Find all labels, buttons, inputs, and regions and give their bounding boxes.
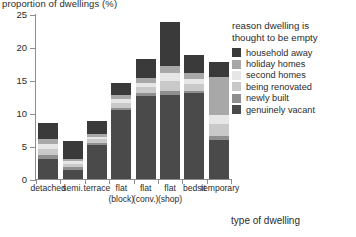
legend-label: household away [246,48,312,58]
bar-detached[interactable] [38,123,58,179]
bar-segment-genuinely-vacant [111,110,131,179]
legend-item-genuinely-vacant[interactable]: genuinely vacant [232,104,356,115]
bar-segment-genuinely-vacant [38,159,58,179]
legend-swatch-icon [232,60,241,69]
y-tick-25: 25 [30,15,36,16]
bar-segment-household-away [184,55,204,73]
y-tick-label-5: 5 [22,141,27,152]
legend-label: genuinely vacant [246,105,315,115]
bar-flat-conv-[interactable] [136,59,156,179]
bar-segment-genuinely-vacant [87,145,107,179]
x-label-temporary: temporary [201,183,237,194]
x-label-line1: temporary [201,183,240,193]
bar-flat-shop-[interactable] [160,22,180,179]
bar-segment-genuinely-vacant [136,96,156,179]
chart-root: proportion of dwellings (%) 0510152025 d… [0,0,356,237]
y-tick-label-10: 10 [16,108,27,119]
legend-item-household-away[interactable]: household away [232,47,356,58]
y-tick-label-15: 15 [16,75,27,86]
legend-label: holiday homes [246,59,305,69]
bar-segment-holiday-homes [160,66,180,73]
legend-item-holiday-homes[interactable]: holiday homes [232,58,356,69]
y-tick-20: 20 [30,48,36,49]
bar-segment-second-homes [209,115,229,124]
legend-title-line1: reason dwelling is [232,20,356,32]
bar-temporary[interactable] [209,62,229,179]
bar-terrace[interactable] [87,121,107,179]
bar-segment-genuinely-vacant [209,140,229,179]
legend: reason dwelling is thought to be empty h… [232,20,356,115]
x-label-line1: flat [116,183,127,193]
bar-segment-second-homes [160,73,180,81]
bar-segment-holiday-homes [209,77,229,115]
bar-segment-holiday-homes [184,73,204,80]
legend-title-line2: thought to be empty [232,32,356,44]
bar-semi-[interactable] [63,141,83,179]
legend-swatch-icon [232,105,241,114]
legend-label: being renovated [246,82,312,92]
legend-swatch-icon [232,71,241,80]
y-tick-10: 10 [30,114,36,115]
bar-segment-household-away [209,62,229,77]
legend-items: household awayholiday homessecond homesb… [232,47,356,115]
legend-label: second homes [246,70,306,80]
legend-title: reason dwelling is thought to be empty [232,20,356,43]
bar-segment-being-renovated [209,124,229,137]
bar-segment-being-renovated [184,84,204,91]
legend-swatch-icon [232,48,241,57]
legend-item-second-homes[interactable]: second homes [232,70,356,81]
bar-segment-household-away [111,83,131,95]
y-axis-title: proportion of dwellings (%) [2,0,117,9]
bar-segment-household-away [38,123,58,140]
bar-flat-block-[interactable] [111,83,131,179]
plot-area: 0510152025 [35,14,231,180]
bar-segment-household-away [63,141,83,159]
legend-item-being-renovated[interactable]: being renovated [232,81,356,92]
x-label-line2: (shop) [152,194,188,205]
bar-segment-household-away [136,59,156,78]
x-axis-labels: detachedsemi.terraceflat(block)flat(conv… [36,183,232,217]
y-tick-15: 15 [30,81,36,82]
bar-segment-household-away [87,121,107,134]
bar-segment-being-renovated [160,81,180,91]
y-tick-label-20: 20 [16,42,27,53]
x-label-line1: flat [164,183,175,193]
y-tick-5: 5 [30,147,36,148]
legend-swatch-icon [232,82,241,91]
y-tick-label-0: 0 [22,174,27,185]
x-label-line1: flat [140,183,151,193]
legend-label: newly built [246,93,289,103]
bar-group [36,14,231,179]
legend-item-newly-built[interactable]: newly built [232,93,356,104]
y-tick-label-25: 25 [16,9,27,20]
x-axis-title: type of dwelling [0,215,300,226]
bar-segment-genuinely-vacant [63,170,83,179]
legend-swatch-icon [232,94,241,103]
bar-segment-genuinely-vacant [160,95,180,179]
bar-segment-household-away [160,22,180,66]
bar-bedsit[interactable] [184,55,204,179]
bar-segment-genuinely-vacant [184,93,204,179]
